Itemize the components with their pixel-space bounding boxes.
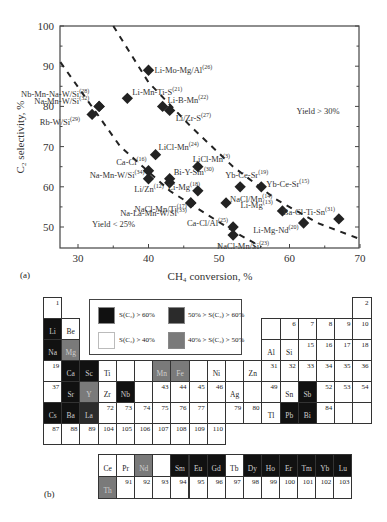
atomic-number: 102 (321, 478, 332, 486)
atomic-number: 2 (365, 299, 369, 307)
atomic-number: 16 (325, 341, 332, 349)
element-cell: 35 (334, 360, 353, 382)
element-cell: 109 (189, 423, 208, 445)
element-symbol: Sc (80, 369, 97, 378)
element-cell: 17 (334, 339, 353, 361)
point-label: Ca-Cl/Al(25) (187, 217, 228, 228)
element-cell: 99 (261, 476, 280, 499)
point-label: Li-B-Mn(22) (168, 94, 209, 105)
element-cell: 43 (152, 381, 171, 403)
element-cell: 45 (189, 381, 208, 403)
yield-annotation: Yield < 25% (92, 219, 135, 229)
element-cell: Th (98, 476, 117, 499)
point-label: Li/Zn(12) (134, 183, 163, 194)
element-symbol: Tm (298, 464, 315, 473)
element-cell: Zn (243, 360, 262, 382)
element-symbol: Ni (208, 369, 225, 378)
point-label: Ca-Cl(16) (116, 156, 146, 167)
element-cell: 75 (152, 402, 171, 424)
data-marker (333, 213, 344, 224)
x-tick-label: 40 (143, 252, 155, 264)
element-symbol: Fe (171, 369, 188, 378)
element-cell: 18 (352, 339, 371, 361)
point-label: Rb-W/Si(29) (40, 116, 80, 127)
element-cell: 104 (98, 423, 117, 445)
atomic-number: 6 (292, 320, 296, 328)
y-tick-label: 100 (38, 20, 55, 32)
atomic-number: 92 (143, 478, 150, 486)
element-symbol: Mg (62, 348, 79, 357)
element-cell: Ce (98, 454, 117, 477)
element-cell: 107 (152, 423, 171, 445)
element-cell: Lu (333, 454, 352, 477)
element-cell: Tb (225, 454, 244, 477)
data-marker (143, 65, 154, 76)
atomic-number: 80 (252, 404, 259, 412)
point-label: Na-Mn-W/Si(34) (90, 169, 145, 180)
element-cell: 16 (316, 339, 335, 361)
atomic-number: 87 (52, 425, 59, 433)
point-label: Li-Mg(13) (240, 199, 272, 210)
atomic-number: 106 (140, 425, 151, 433)
element-cell: Nb (116, 381, 135, 403)
element-symbol: Nb (117, 390, 134, 399)
element-symbol: Y (80, 390, 97, 399)
point-label: Na-Mn-W/Si(32) (34, 95, 89, 106)
element-cell: 97 (225, 476, 244, 499)
element-cell (352, 402, 371, 424)
atomic-number: 32 (289, 362, 296, 370)
data-marker (298, 217, 309, 228)
element-cell: 49 (261, 381, 280, 403)
atomic-number: 104 (103, 425, 114, 433)
y-tick-label: 90 (43, 60, 55, 72)
element-cell: Na (43, 339, 62, 361)
point-label: NaCl-Mn/Si(23) (217, 240, 269, 251)
element-cell: Be (61, 318, 80, 340)
element-cell: Cs (43, 402, 62, 424)
element-cell: 15 (298, 339, 317, 361)
element-cell: 110 (207, 423, 226, 445)
element-symbol: Zr (99, 390, 116, 399)
atomic-number: 7 (310, 320, 314, 328)
element-symbol: Li (44, 327, 61, 336)
atomic-number: 95 (198, 478, 205, 486)
element-cell (225, 360, 244, 382)
element-cell: Pb (280, 402, 299, 424)
element-cell: Gd (207, 454, 226, 477)
y-tick-label: 70 (43, 141, 55, 153)
element-symbol: Ca (62, 369, 79, 378)
element-cell: Y (79, 381, 98, 403)
y-tick-label: 60 (43, 181, 55, 193)
atomic-number: 108 (176, 425, 187, 433)
legend-label: 50% > S(C₂) > 60% (188, 311, 244, 319)
element-cell (334, 402, 353, 424)
element-cell: 36 (352, 360, 371, 382)
x-tick-label: 50 (214, 252, 226, 264)
x-tick-label: 60 (284, 252, 296, 264)
element-cell: 84 (316, 402, 335, 424)
element-symbol: Bi (299, 411, 316, 420)
element-cell: 44 (170, 381, 189, 403)
atomic-number: 89 (89, 425, 96, 433)
element-cell: 2 (352, 297, 371, 319)
point-label: Yb-Ce-Sr(15) (266, 178, 309, 189)
atomic-number: 10 (362, 320, 369, 328)
atomic-number: 109 (194, 425, 205, 433)
element-cell: 100 (279, 476, 298, 499)
element-cell: 1 (43, 297, 62, 319)
element-cell: Sr (61, 381, 80, 403)
element-cell: Si (280, 339, 299, 361)
element-cell: Eu (189, 454, 208, 477)
scatter-chart: 50607080901003040506070CH₄ conversion, %… (0, 0, 387, 290)
element-cell: 96 (207, 476, 226, 499)
legend-label: 40% > S(C₂) > 50% (188, 336, 244, 344)
atomic-number: 93 (161, 478, 168, 486)
atomic-number: 15 (307, 341, 314, 349)
atomic-number: 88 (70, 425, 77, 433)
element-cell: 72 (98, 402, 117, 424)
y-axis-label: C₂ selectivity, % (14, 100, 26, 173)
element-cell: 102 (315, 476, 334, 499)
atomic-number: 76 (180, 404, 187, 412)
element-cell: Ag (225, 381, 244, 403)
legend-swatch-gray (168, 332, 185, 349)
